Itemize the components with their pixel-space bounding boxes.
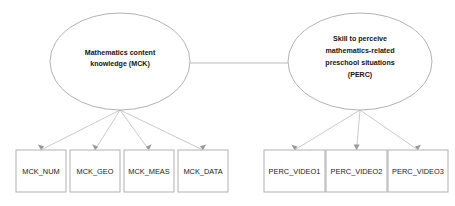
- loading-path-perc-to-perc-video1: [295, 110, 361, 150]
- loading-path-mck-to-mck-data: [120, 110, 203, 150]
- indicator-label-mck-num: MCK_NUM: [22, 167, 59, 176]
- loading-paths-group: [41, 110, 418, 150]
- latent-variable-mck[interactable]: Mathematics content knowledge (MCK): [50, 13, 190, 110]
- indicator-perc-video3[interactable]: PERC_VIDEO3: [388, 150, 448, 192]
- latent-label-perc-line-2: mathematics-related: [326, 47, 395, 55]
- loading-path-mck-to-mck-num: [41, 110, 120, 150]
- latent-label-perc-line-1: Skill to perceive: [333, 35, 387, 43]
- indicator-mck-data[interactable]: MCK_DATA: [178, 150, 228, 192]
- diagram-svg: Mathematics content knowledge (MCK) Skil…: [0, 0, 455, 206]
- indicator-label-perc-video2: PERC_VIDEO2: [331, 167, 383, 176]
- latent-label-perc-line-4: (PERC): [348, 71, 373, 79]
- loading-path-perc-to-perc-video2: [357, 110, 361, 150]
- indicator-mck-meas[interactable]: MCK_MEAS: [124, 150, 174, 192]
- indicator-mck-num[interactable]: MCK_NUM: [16, 150, 66, 192]
- sem-path-diagram-canvas: Mathematics content knowledge (MCK) Skil…: [0, 0, 455, 206]
- arrowhead-perc-video2: [354, 145, 360, 150]
- indicator-label-mck-meas: MCK_MEAS: [128, 167, 170, 176]
- arrowhead-mck-meas: [146, 144, 152, 150]
- indicator-label-perc-video1: PERC_VIDEO1: [269, 167, 321, 176]
- arrowhead-perc-video1: [291, 145, 297, 150]
- latent-label-mck-line-2: knowledge (MCK): [90, 60, 150, 68]
- indicator-label-mck-data: MCK_DATA: [183, 167, 222, 176]
- indicator-label-perc-video3: PERC_VIDEO3: [392, 167, 444, 176]
- loading-path-perc-to-perc-video3: [360, 110, 418, 150]
- latent-label-perc-line-3: preschool situations: [325, 59, 394, 67]
- loading-arrowheads-group: [38, 144, 421, 150]
- latent-label-mck-line-1: Mathematics content: [85, 49, 156, 57]
- arrowhead-perc-video3: [415, 145, 421, 150]
- indicator-mck-geo[interactable]: MCK_GEO: [70, 150, 120, 192]
- loading-path-mck-to-mck-meas: [120, 110, 149, 150]
- indicator-perc-video2[interactable]: PERC_VIDEO2: [326, 150, 387, 192]
- latent-variable-perc[interactable]: Skill to perceive mathematics-related pr…: [288, 13, 432, 110]
- indicator-perc-video1[interactable]: PERC_VIDEO1: [264, 150, 325, 192]
- indicator-label-mck-geo: MCK_GEO: [77, 167, 114, 176]
- arrowhead-mck-geo: [92, 144, 98, 150]
